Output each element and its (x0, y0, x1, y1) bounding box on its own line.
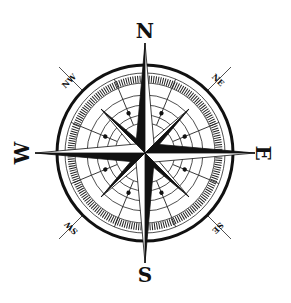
label-east: E (251, 145, 275, 160)
label-northwest: NW (60, 71, 79, 90)
compass-rose-icon: N S E W NW NE SE SW (0, 0, 291, 303)
label-north: N (136, 19, 154, 43)
label-south: S (138, 263, 152, 287)
label-southeast: SE (210, 220, 225, 235)
label-west: W (10, 141, 34, 165)
